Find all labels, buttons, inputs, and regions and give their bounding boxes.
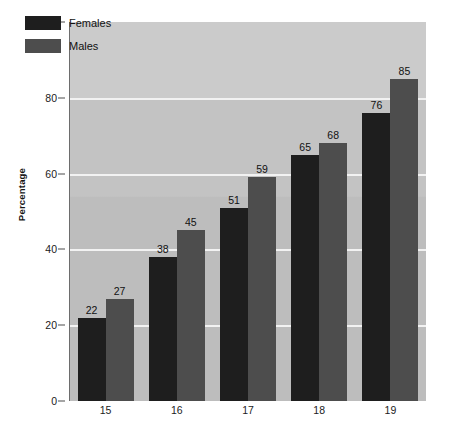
bar-group: 3845 <box>149 22 205 401</box>
bar-females-18[interactable]: 65 <box>291 155 319 401</box>
legend-label: Females <box>69 17 111 29</box>
bar-group: 7685 <box>362 22 418 401</box>
bar-females-17[interactable]: 51 <box>220 208 248 401</box>
bar-value-label: 45 <box>185 216 197 228</box>
y-axis-tick-mark <box>58 325 65 326</box>
plot-area: 22273845515965687685 <box>70 22 426 401</box>
bar-males-15[interactable]: 27 <box>106 299 134 401</box>
bar-males-16[interactable]: 45 <box>177 230 205 401</box>
bar-females-19[interactable]: 76 <box>362 113 390 401</box>
x-axis-tick-label: 16 <box>157 404 197 416</box>
bar-value-label: 68 <box>327 129 339 141</box>
y-axis-tick-label: 40 <box>11 243 57 255</box>
bar-chart-figure: Percentage 020406080100 2227384551596568… <box>0 0 452 436</box>
bar-group: 5159 <box>220 22 276 401</box>
y-axis-tick-label: 0 <box>11 395 57 407</box>
bar-value-label: 27 <box>114 285 126 297</box>
y-axis-tick-label: 20 <box>11 319 57 331</box>
bar-males-17[interactable]: 59 <box>248 177 276 401</box>
x-axis-tick-labels: 1516171819 <box>70 404 426 428</box>
bar-value-label: 85 <box>399 65 411 77</box>
legend-swatch-females <box>25 16 61 30</box>
bar-group: 6568 <box>291 22 347 401</box>
x-axis-tick-label: 18 <box>299 404 339 416</box>
legend-label: Males <box>69 40 98 52</box>
bar-males-18[interactable]: 68 <box>319 143 347 401</box>
y-axis-tick-labels: 020406080100 <box>0 0 70 436</box>
legend-item-females[interactable]: Females <box>25 13 111 32</box>
bar-value-label: 51 <box>228 194 240 206</box>
bar-females-15[interactable]: 22 <box>78 318 106 401</box>
x-axis-tick-label: 17 <box>228 404 268 416</box>
chart-legend: FemalesMales <box>25 13 111 59</box>
bar-group: 2227 <box>78 22 134 401</box>
bar-value-label: 22 <box>86 304 98 316</box>
y-axis-tick-label: 80 <box>11 92 57 104</box>
bars-layer: 22273845515965687685 <box>70 22 426 401</box>
y-axis-tick-mark <box>58 173 65 174</box>
bar-value-label: 59 <box>256 163 268 175</box>
legend-swatch-males <box>25 39 61 53</box>
bar-males-19[interactable]: 85 <box>390 79 418 401</box>
y-axis-tick-mark <box>58 401 65 402</box>
y-axis-tick-mark <box>58 249 65 250</box>
legend-item-males[interactable]: Males <box>25 36 111 55</box>
x-axis-tick-label: 15 <box>86 404 126 416</box>
y-axis-tick-mark <box>58 97 65 98</box>
x-axis-tick-label: 19 <box>370 404 410 416</box>
bar-females-16[interactable]: 38 <box>149 257 177 401</box>
bar-value-label: 76 <box>371 99 383 111</box>
bar-value-label: 38 <box>157 243 169 255</box>
bar-value-label: 65 <box>299 141 311 153</box>
y-axis-tick-label: 60 <box>11 168 57 180</box>
